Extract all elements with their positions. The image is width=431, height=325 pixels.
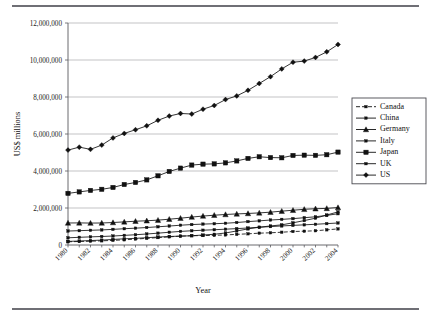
data-point-marker — [213, 228, 216, 231]
data-point-marker — [212, 162, 216, 166]
data-point-marker — [179, 224, 182, 227]
x-tick-label: 1984 — [99, 246, 115, 262]
data-point-marker — [313, 55, 318, 60]
data-point-marker — [258, 226, 261, 229]
data-point-marker — [292, 217, 295, 220]
data-point-marker — [365, 140, 368, 143]
data-point-marker — [178, 166, 182, 170]
data-point-marker — [168, 235, 171, 238]
x-axis-title: Year — [195, 286, 211, 295]
data-point-marker — [123, 227, 126, 230]
data-point-marker — [190, 163, 194, 167]
x-tick-label: 1986 — [121, 246, 137, 262]
data-point-marker — [325, 153, 329, 157]
data-point-marker — [326, 214, 329, 217]
data-point-marker — [99, 143, 104, 148]
data-point-marker — [247, 220, 250, 223]
data-point-marker — [364, 150, 368, 154]
data-point-marker — [337, 228, 340, 231]
data-point-marker — [337, 212, 340, 215]
data-point-marker — [236, 227, 239, 230]
data-point-marker — [324, 49, 329, 54]
data-point-marker — [133, 180, 137, 184]
data-point-marker — [112, 228, 115, 231]
data-point-marker — [268, 74, 273, 79]
data-point-marker — [123, 238, 126, 241]
data-point-marker — [213, 233, 216, 236]
data-point-marker — [292, 224, 295, 227]
data-point-marker — [89, 229, 92, 232]
data-point-marker — [122, 131, 127, 136]
data-point-marker — [224, 228, 227, 231]
data-point-marker — [326, 222, 329, 225]
data-point-marker — [303, 230, 306, 233]
data-point-marker — [291, 153, 295, 157]
data-point-marker — [144, 123, 149, 128]
data-point-marker — [134, 227, 137, 230]
top-divider-rule — [12, 5, 419, 7]
y-tick-label: 12,000,000 — [30, 20, 63, 28]
data-point-marker — [258, 220, 261, 223]
y-tick-label: 4,000,000 — [33, 168, 62, 176]
data-point-marker — [269, 219, 272, 222]
data-point-marker — [302, 153, 306, 157]
data-point-marker — [88, 188, 92, 192]
x-tick-label: 2000 — [279, 246, 295, 262]
data-point-marker — [236, 233, 239, 236]
data-point-marker — [191, 230, 194, 233]
y-tick-label: 2,000,000 — [33, 205, 62, 213]
data-point-marker — [281, 231, 284, 234]
data-point-marker — [156, 118, 161, 123]
series-japan — [66, 150, 340, 196]
data-point-marker — [77, 190, 81, 194]
legend-label: UK — [380, 159, 392, 168]
data-point-marker — [66, 148, 71, 153]
line-chart: 02,000,0004,000,0006,000,0008,000,00010,… — [0, 10, 431, 310]
figure-root: 02,000,0004,000,0006,000,0008,000,00010,… — [0, 0, 431, 325]
data-point-marker — [78, 236, 81, 239]
data-point-marker — [269, 232, 272, 235]
data-point-marker — [112, 238, 115, 241]
data-point-marker — [89, 239, 92, 242]
data-point-marker — [66, 191, 70, 195]
data-point-marker — [146, 236, 149, 239]
data-point-marker — [257, 81, 262, 86]
data-point-marker — [279, 66, 284, 71]
data-point-marker — [258, 232, 261, 235]
data-point-marker — [78, 229, 81, 232]
data-point-marker — [281, 218, 284, 221]
data-point-marker — [179, 235, 182, 238]
data-point-marker — [122, 182, 126, 186]
data-point-marker — [146, 233, 149, 236]
data-point-marker — [168, 225, 171, 228]
legend-label: US — [380, 170, 390, 179]
x-tick-label: 1980 — [54, 246, 70, 262]
data-point-marker — [133, 127, 138, 132]
data-point-marker — [191, 223, 194, 226]
data-point-marker — [365, 117, 368, 120]
data-point-marker — [189, 112, 194, 117]
data-point-marker — [111, 185, 115, 189]
x-tick-label: 1990 — [166, 246, 182, 262]
data-point-marker — [247, 233, 250, 236]
data-point-marker — [268, 155, 272, 159]
data-point-marker — [202, 223, 205, 226]
data-point-marker — [303, 219, 306, 222]
x-tick-label: 1996 — [234, 246, 250, 262]
data-point-marker — [101, 235, 104, 238]
data-point-marker — [213, 222, 216, 225]
data-point-marker — [156, 174, 160, 178]
data-point-marker — [202, 234, 205, 237]
data-point-marker — [146, 226, 149, 229]
x-tick-label: 1988 — [144, 246, 160, 262]
data-point-marker — [134, 237, 137, 240]
data-point-marker — [246, 156, 250, 160]
data-point-marker — [234, 93, 239, 98]
series-line — [68, 152, 338, 193]
data-point-marker — [101, 239, 104, 242]
data-point-marker — [291, 60, 296, 65]
legend-label: Germany — [380, 124, 410, 133]
data-point-marker — [314, 216, 317, 219]
data-point-marker — [337, 222, 340, 225]
data-point-marker — [314, 230, 317, 233]
